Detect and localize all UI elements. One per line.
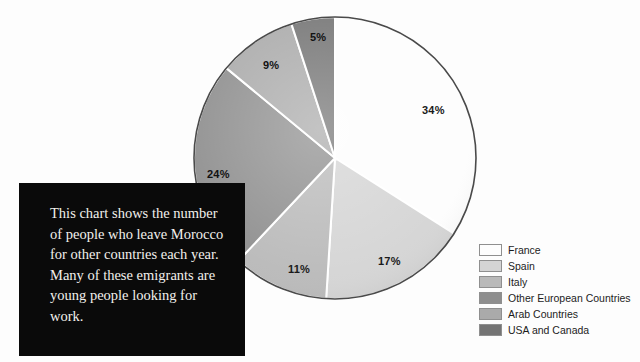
legend-swatch-france	[479, 244, 502, 256]
legend-label-italy: Italy	[508, 276, 527, 288]
pie-label-italy: 11%	[288, 263, 310, 275]
legend-item-france[interactable]: France	[479, 242, 631, 258]
legend-item-other-european-countries[interactable]: Other European Countries	[479, 290, 631, 306]
pie-label-usa-and-canada: 5%	[310, 31, 326, 43]
caption-text: This chart shows the number of people wh…	[50, 203, 230, 326]
pie-label-other-european-countries: 24%	[207, 168, 230, 180]
pie-label-spain: 17%	[378, 255, 401, 267]
legend-item-usa-and-canada[interactable]: USA and Canada	[479, 322, 631, 338]
caption-box: This chart shows the number of people wh…	[19, 183, 245, 356]
pie-label-france: 34%	[422, 104, 445, 116]
legend-label-france: France	[508, 244, 541, 256]
legend-swatch-other-european-countries	[479, 292, 502, 304]
legend-item-italy[interactable]: Italy	[479, 274, 631, 290]
legend-swatch-usa-and-canada	[479, 324, 502, 336]
legend-swatch-italy	[479, 276, 502, 288]
legend-item-arab-countries[interactable]: Arab Countries	[479, 306, 631, 322]
legend-label-usa-and-canada: USA and Canada	[508, 324, 589, 336]
legend-item-spain[interactable]: Spain	[479, 258, 631, 274]
chart-legend: France Spain Italy Other European Countr…	[479, 242, 631, 338]
pie-label-arab-countries: 9%	[263, 59, 279, 71]
legend-label-spain: Spain	[508, 260, 535, 272]
legend-label-arab-countries: Arab Countries	[508, 308, 578, 320]
legend-swatch-arab-countries	[479, 308, 502, 320]
legend-label-other-european-countries: Other European Countries	[508, 292, 631, 304]
legend-swatch-spain	[479, 260, 502, 272]
chart-canvas: 34% 17% 11% 24% 9% 5% This chart shows t…	[0, 0, 640, 362]
